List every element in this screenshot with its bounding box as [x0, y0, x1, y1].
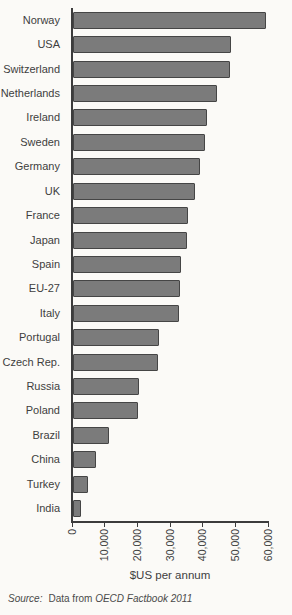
bar [73, 12, 266, 29]
bar [73, 500, 81, 517]
bar [73, 451, 96, 468]
category-label: Switzerland [0, 57, 66, 81]
category-label: Poland [0, 399, 66, 423]
bar [73, 61, 230, 78]
x-axis: 010,00020,00030,00040,00050,00060,000 [72, 523, 268, 567]
category-label: Netherlands [0, 81, 66, 105]
category-label: Russia [0, 374, 66, 398]
bar [73, 85, 217, 102]
category-label: India [0, 496, 66, 520]
x-axis-tick [104, 523, 105, 527]
category-label: Italy [0, 301, 66, 325]
category-label: Ireland [0, 106, 66, 130]
bar [73, 305, 179, 322]
category-label: Brazil [0, 423, 66, 447]
category-label: Sweden [0, 130, 66, 154]
category-label: Turkey [0, 472, 66, 496]
plot-area [71, 8, 269, 523]
bar [73, 207, 188, 224]
source-label: Source: [8, 593, 42, 604]
x-axis-tick [235, 523, 236, 527]
source-note: Source:Data from OECD Factbook 2011 [8, 593, 192, 604]
bar [73, 109, 207, 126]
bar [73, 329, 159, 346]
y-axis-category-labels: NorwayUSASwitzerlandNetherlandsIrelandSw… [0, 8, 66, 521]
source-reference: OECD Factbook 2011 [95, 593, 192, 604]
x-axis-tick [137, 523, 138, 527]
bar [73, 280, 180, 297]
category-label: UK [0, 179, 66, 203]
bar [73, 134, 205, 151]
x-axis-title: $US per annum [71, 569, 269, 581]
x-axis-tick [170, 523, 171, 527]
bar [73, 183, 195, 200]
bar [73, 354, 158, 371]
bar [73, 427, 109, 444]
bar [73, 36, 231, 53]
bar [73, 256, 181, 273]
x-axis-tick [72, 523, 73, 527]
category-label: Japan [0, 228, 66, 252]
category-label: France [0, 203, 66, 227]
category-label: Czech Rep. [0, 350, 66, 374]
bar [73, 402, 138, 419]
category-label: Germany [0, 155, 66, 179]
category-label: Spain [0, 252, 66, 276]
source-body: Data from [48, 593, 92, 604]
gdp-per-capita-bar-chart: NorwayUSASwitzerlandNetherlandsIrelandSw… [0, 0, 292, 615]
category-label: China [0, 448, 66, 472]
bar [73, 158, 200, 175]
x-axis-tick [202, 523, 203, 527]
bar [73, 232, 187, 249]
category-label: EU-27 [0, 277, 66, 301]
x-axis-tick [268, 523, 269, 527]
bar [73, 378, 139, 395]
category-label: USA [0, 32, 66, 56]
category-label: Portugal [0, 325, 66, 349]
category-label: Norway [0, 8, 66, 32]
bar [73, 476, 88, 493]
